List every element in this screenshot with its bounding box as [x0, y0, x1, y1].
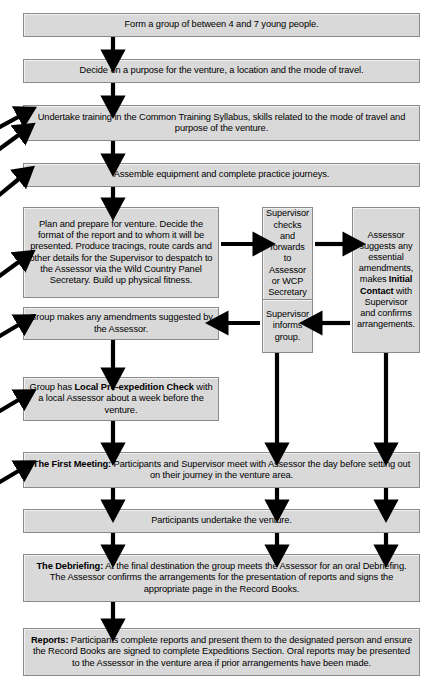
- flow-node-group-amendments: Group makes any amendments suggested by …: [23, 307, 219, 340]
- flow-node-undertake-training: Undertake training in the Common Trainin…: [23, 105, 420, 141]
- local-check-text-before: Group has: [30, 382, 75, 392]
- connector-incoming-plan: [0, 261, 20, 277]
- connector-incoming-first-meeting: [0, 470, 20, 483]
- flow-node-undertake-venture-label: Participants undertake the venture.: [24, 515, 419, 526]
- flow-node-reports-label: Reports: Participants complete reports a…: [24, 635, 419, 669]
- flow-node-local-pre-expedition-check: Group has Local Pre-expedition Check wit…: [23, 377, 219, 421]
- flow-node-form-group-label: Form a group of between 4 and 7 young pe…: [24, 19, 419, 30]
- flow-node-decide-purpose: Decide on a purpose for the venture, a l…: [23, 59, 420, 83]
- reports-text-after: Participants complete reports and presen…: [33, 635, 412, 668]
- flow-node-assessor-suggests: Assessor suggests any essential amendmen…: [352, 207, 420, 353]
- debriefing-text-after: At the final destination the group meets…: [50, 561, 407, 594]
- flow-node-form-group: Form a group of between 4 and 7 young pe…: [23, 13, 420, 37]
- flow-node-plan-and-prepare: Plan and prepare for venture. Decide the…: [23, 207, 219, 298]
- debriefing-text-bold: The Debriefing:: [37, 561, 104, 571]
- flow-node-local-pre-expedition-check-label: Group has Local Pre-expedition Check wit…: [24, 382, 218, 416]
- flow-node-debriefing-label: The Debriefing: At the final destination…: [24, 561, 419, 595]
- connector-incoming-training-lower: [0, 134, 20, 150]
- first-meeting-text-after: Participants and Supervisor meet with As…: [111, 459, 410, 480]
- reports-text-bold: Reports:: [31, 635, 68, 645]
- connector-incoming-local-check: [0, 399, 20, 412]
- flow-node-undertake-venture: Participants undertake the venture.: [23, 509, 420, 533]
- flow-node-first-meeting-label: The First Meeting: Participants and Supe…: [24, 459, 419, 482]
- flow-node-assessor-suggests-label: Assessor suggests any essential amendmen…: [352, 230, 420, 331]
- flow-node-supervisor-informs-label: Supervisor informs group.: [261, 309, 314, 343]
- flow-node-assemble-equipment: Assemble equipment and complete practice…: [23, 163, 420, 187]
- flowchart-diagram: Form a group of between 4 and 7 young pe…: [0, 0, 442, 694]
- flow-node-plan-and-prepare-label: Plan and prepare for venture. Decide the…: [24, 219, 218, 287]
- connector-incoming-assemble: [0, 178, 20, 196]
- flow-node-reports: Reports: Participants complete reports a…: [23, 628, 420, 676]
- flow-node-group-amendments-label: Group makes any amendments suggested by …: [24, 312, 218, 335]
- flow-node-first-meeting: The First Meeting: Participants and Supe…: [23, 452, 420, 488]
- flow-node-supervisor-informs: Supervisor informs group.: [262, 299, 313, 353]
- flow-node-debriefing: The Debriefing: At the final destination…: [23, 554, 420, 602]
- flow-node-decide-purpose-label: Decide on a purpose for the venture, a l…: [24, 65, 419, 76]
- local-check-text-bold: Local Pre-expedition Check: [75, 382, 194, 392]
- first-meeting-text-bold: The First Meeting:: [33, 459, 111, 469]
- connector-incoming-training-upper: [0, 116, 20, 128]
- flow-node-assemble-equipment-label: Assemble equipment and complete practice…: [24, 169, 419, 180]
- connector-incoming-group-amendments: [0, 324, 20, 337]
- flow-node-undertake-training-label: Undertake training in the Common Trainin…: [24, 112, 419, 135]
